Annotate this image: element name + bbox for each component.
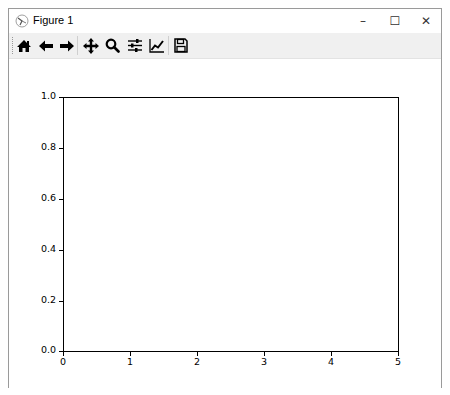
y-tick-mark	[59, 97, 63, 98]
close-button[interactable]: ✕	[411, 9, 441, 33]
x-tick-label: 4	[321, 356, 341, 367]
pan-button[interactable]	[80, 35, 101, 56]
zoom-button[interactable]	[102, 35, 123, 56]
toolbar-separator	[77, 36, 78, 55]
y-tick-label: 0.0	[26, 344, 56, 355]
matplotlib-logo-icon	[15, 14, 29, 28]
title-bar[interactable]: Figure 1 – ☐ ✕	[9, 9, 441, 33]
minimize-button[interactable]: –	[348, 9, 378, 33]
home-icon	[16, 39, 32, 53]
y-tick-label: 0.6	[26, 192, 56, 203]
x-tick-label: 5	[388, 356, 408, 367]
home-button[interactable]	[13, 35, 34, 56]
x-tick-label: 0	[53, 356, 73, 367]
x-tick-label: 1	[120, 356, 140, 367]
forward-arrow-icon	[59, 39, 75, 53]
back-arrow-icon	[38, 39, 54, 53]
y-tick-mark	[59, 301, 63, 302]
figure-window: Figure 1 – ☐ ✕	[8, 8, 442, 388]
window-title: Figure 1	[33, 14, 73, 26]
toolbar-separator	[168, 36, 169, 55]
back-button[interactable]	[35, 35, 56, 56]
navigation-toolbar	[9, 33, 441, 59]
forward-button[interactable]	[56, 35, 77, 56]
save-button[interactable]	[170, 35, 191, 56]
sliders-icon	[127, 38, 143, 53]
figure-canvas[interactable]: 1.0 0.8 0.6 0.4 0.2 0.0 0 1 2 3 4 5	[9, 59, 441, 388]
x-tick-label: 2	[187, 356, 207, 367]
configure-subplots-button[interactable]	[124, 35, 145, 56]
edit-axis-button[interactable]	[146, 35, 167, 56]
y-tick-label: 0.2	[26, 294, 56, 305]
y-tick-mark	[59, 250, 63, 251]
plot-axes[interactable]	[63, 97, 399, 352]
line-chart-icon	[149, 38, 165, 53]
magnifier-icon	[105, 38, 120, 53]
y-tick-mark	[59, 199, 63, 200]
y-tick-label: 0.4	[26, 243, 56, 254]
y-tick-label: 1.0	[26, 90, 56, 101]
x-tick-label: 3	[254, 356, 274, 367]
y-tick-mark	[59, 148, 63, 149]
move-icon	[83, 38, 99, 54]
floppy-disk-icon	[174, 38, 188, 53]
maximize-button[interactable]: ☐	[380, 9, 410, 33]
y-tick-label: 0.8	[26, 141, 56, 152]
